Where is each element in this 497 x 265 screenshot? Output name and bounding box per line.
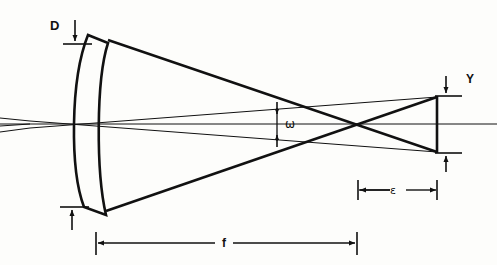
optics-diagram: D Y ω: [0, 0, 497, 265]
optics-diagram-canvas: D Y ω: [0, 0, 497, 265]
label-Y: Y: [466, 72, 474, 86]
label-epsilon: ε: [390, 184, 396, 197]
label-D: D: [50, 18, 59, 33]
label-omega: ω: [285, 117, 295, 131]
